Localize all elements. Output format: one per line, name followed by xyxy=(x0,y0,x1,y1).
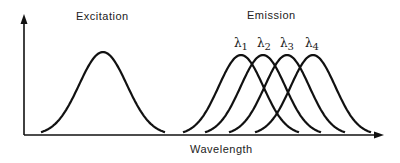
lambda-1-label: λ1 xyxy=(234,36,248,52)
excitation-curve xyxy=(41,52,165,132)
emission-label: Emission xyxy=(247,9,296,21)
spectra-diagram xyxy=(0,0,400,163)
y-axis-arrow-icon xyxy=(21,14,28,24)
lambda-3-label: λ3 xyxy=(280,36,294,52)
wavelength-axis-label: Wavelength xyxy=(190,143,253,155)
lambda-2-label: λ2 xyxy=(257,36,271,52)
emission-curve-1 xyxy=(183,55,299,132)
emission-curve-2 xyxy=(205,55,321,132)
excitation-label: Excitation xyxy=(76,10,129,22)
x-axis-arrow-icon xyxy=(374,132,384,139)
lambda-4-label: λ4 xyxy=(305,36,319,52)
